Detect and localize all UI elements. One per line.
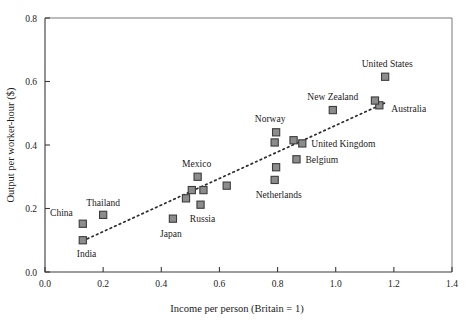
plot-area: 0.00.20.40.60.81.01.21.40.00.20.40.60.8 … <box>0 0 474 322</box>
data-point-label: Netherlands <box>256 190 302 200</box>
data-point-label: Thailand <box>86 198 120 208</box>
x-tick-label: 1.2 <box>388 279 400 289</box>
data-point-marker <box>79 237 86 244</box>
data-point-label: Belgium <box>305 155 338 165</box>
y-tick-label: 0.4 <box>25 141 37 151</box>
y-tick-label: 0.2 <box>25 204 37 214</box>
trend-line-dotted <box>83 102 387 241</box>
data-point-marker <box>223 182 230 189</box>
scatter-chart: 0.00.20.40.60.81.01.21.40.00.20.40.60.8 … <box>0 0 474 322</box>
data-point-marker <box>273 164 280 171</box>
x-tick-label: 1.0 <box>330 279 342 289</box>
x-tick-label: 0.2 <box>97 279 109 289</box>
axis-tick-labels: 0.00.20.40.60.81.01.21.40.00.20.40.60.8 <box>25 14 458 290</box>
x-tick-label: 1.4 <box>446 279 458 289</box>
data-point-marker <box>79 220 86 227</box>
data-point-marker <box>194 173 201 180</box>
data-point-label: Russia <box>190 214 216 224</box>
y-axis-title: Output per worker-hour ($) <box>5 87 17 202</box>
data-point-marker <box>169 215 176 222</box>
data-point-label: Japan <box>160 229 182 239</box>
y-tick-label: 0.6 <box>25 77 37 87</box>
data-point-marker <box>329 106 336 113</box>
y-tick-label: 0.0 <box>25 268 37 278</box>
trendline <box>83 102 387 241</box>
data-point-marker <box>188 186 195 193</box>
data-point-label: United Kingdom <box>311 139 376 149</box>
data-point-marker <box>271 139 278 146</box>
data-point-marker <box>273 129 280 136</box>
data-point-marker <box>100 211 107 218</box>
data-point-label: India <box>77 249 97 259</box>
data-point-label: United States <box>362 59 413 69</box>
x-tick-label: 0.4 <box>155 279 167 289</box>
x-tick-label: 0.8 <box>272 279 284 289</box>
data-point-marker <box>182 195 189 202</box>
plot-frame <box>45 18 452 272</box>
data-point-marker <box>271 176 278 183</box>
data-point-label: Norway <box>255 114 286 124</box>
data-point-marker <box>293 156 300 163</box>
x-axis-title: Income per person (Britain = 1) <box>170 303 304 315</box>
data-point-marker <box>197 201 204 208</box>
data-point-label: New Zealand <box>307 92 358 102</box>
data-point-marker <box>371 97 378 104</box>
data-point-marker <box>382 73 389 80</box>
data-point-label: China <box>50 208 73 218</box>
x-tick-label: 0.0 <box>39 279 51 289</box>
x-tick-label: 0.6 <box>213 279 225 289</box>
axis-lines <box>45 18 452 272</box>
axis-ticks <box>45 18 452 272</box>
data-point-label: Mexico <box>182 159 211 169</box>
data-point-label: Australia <box>391 104 427 114</box>
data-point-marker <box>200 186 207 193</box>
data-point-marker <box>290 137 297 144</box>
plot-box-outline <box>45 18 452 272</box>
y-tick-label: 0.8 <box>25 14 37 24</box>
data-point-marker <box>299 140 306 147</box>
